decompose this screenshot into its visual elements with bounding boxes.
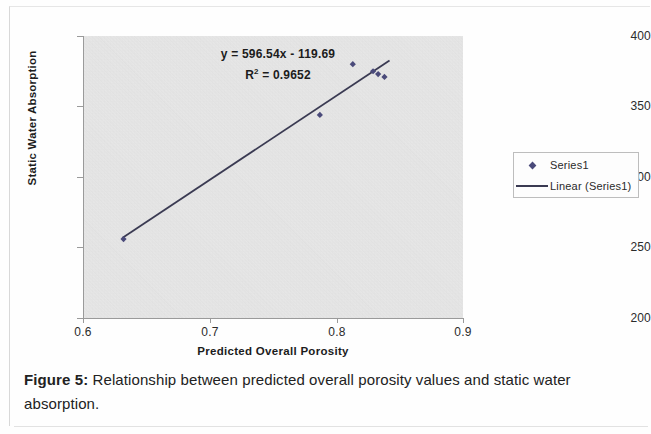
x-tick-mark bbox=[210, 318, 211, 323]
y-tick-label: 350 bbox=[577, 99, 651, 113]
trendline-segment bbox=[122, 61, 389, 238]
figure-chart: 400 350 300 250 200 0.6 0.7 0.8 0.9 Stat… bbox=[0, 0, 651, 360]
figure-caption: Figure 5: Relationship between predicted… bbox=[24, 368, 634, 416]
data-point-marker bbox=[375, 71, 381, 77]
x-tick-mark bbox=[337, 318, 338, 323]
legend-item-series1[interactable]: Series1 bbox=[514, 154, 640, 176]
x-tick-label: 0.6 bbox=[61, 325, 105, 339]
document-page: 400 350 300 250 200 0.6 0.7 0.8 0.9 Stat… bbox=[0, 0, 651, 434]
x-axis-title: Predicted Overall Porosity bbox=[83, 345, 463, 357]
x-tick-label: 0.7 bbox=[188, 325, 232, 339]
line-swatch-icon bbox=[514, 183, 550, 189]
x-tick-label: 0.9 bbox=[441, 325, 485, 339]
y-tick-label: 400 bbox=[577, 29, 651, 43]
x-axis-line bbox=[83, 318, 464, 319]
x-tick-mark bbox=[463, 318, 464, 323]
legend-label-linear: Linear (Series1) bbox=[550, 180, 631, 192]
chart-legend: Series1 Linear (Series1) bbox=[513, 152, 639, 198]
data-point-marker bbox=[120, 236, 126, 242]
figure-caption-body: Relationship between predicted overall p… bbox=[24, 371, 571, 412]
figure-caption-lead: Figure 5: bbox=[24, 371, 88, 388]
y-axis-title: Static Water Absorption bbox=[26, 18, 38, 218]
data-point-marker bbox=[350, 61, 356, 67]
data-point-marker bbox=[381, 74, 387, 80]
x-tick-mark bbox=[83, 318, 84, 323]
data-point-marker bbox=[317, 112, 323, 118]
diamond-marker-icon bbox=[514, 161, 550, 170]
plot-graphics bbox=[83, 36, 463, 318]
trendline bbox=[122, 61, 389, 238]
x-tick-label: 0.8 bbox=[315, 325, 359, 339]
legend-item-linear[interactable]: Linear (Series1) bbox=[514, 175, 640, 197]
y-tick-label: 200 bbox=[577, 311, 651, 325]
y-tick-label: 250 bbox=[577, 240, 651, 254]
legend-label-series1: Series1 bbox=[550, 159, 589, 171]
page-divider-rule bbox=[14, 426, 648, 427]
